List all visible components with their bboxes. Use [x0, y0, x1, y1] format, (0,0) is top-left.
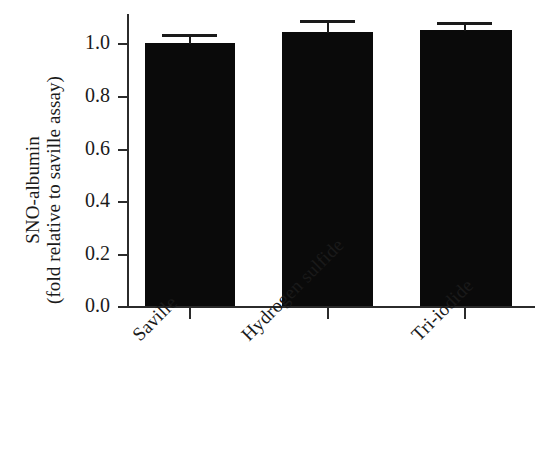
bar-saville — [145, 43, 235, 306]
error-cap-saville — [162, 34, 217, 37]
y-axis-line — [127, 14, 129, 308]
x-tick-1 — [327, 308, 329, 319]
y-tick-label-5: 1.0 — [48, 31, 110, 54]
y-tick-label-2: 0.4 — [48, 189, 110, 212]
error-cap-tri-iodide — [437, 22, 492, 25]
y-tick-4 — [118, 96, 128, 98]
y-tick-label-4: 0.8 — [48, 84, 110, 107]
y-tick-3 — [118, 149, 128, 151]
y-tick-label-1: 0.2 — [48, 242, 110, 265]
y-tick-1 — [118, 254, 128, 256]
y-tick-0 — [118, 306, 128, 308]
y-tick-label-0: 0.0 — [48, 294, 110, 317]
bar-chart-figure: SNO-albumin (fold relative to saville as… — [0, 0, 553, 454]
y-axis-title-line-1: SNO-albumin — [22, 40, 43, 340]
error-cap-hydrogen-sulfide — [300, 20, 355, 23]
y-tick-label-3: 0.6 — [48, 137, 110, 160]
x-tick-2 — [464, 308, 466, 319]
bar-tri-iodide — [420, 30, 512, 306]
y-tick-2 — [118, 201, 128, 203]
y-tick-5 — [118, 43, 128, 45]
x-tick-0 — [189, 308, 191, 319]
